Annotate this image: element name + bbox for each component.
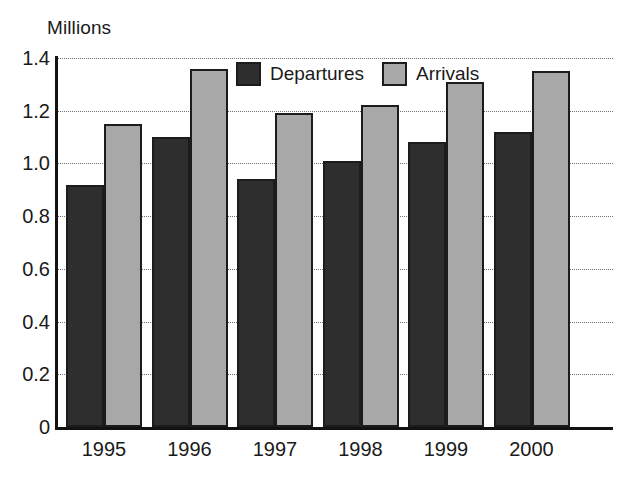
bar-chart: Millions 00.20.40.60.81.01.21.4 19951996… <box>0 0 633 484</box>
bar-arrivals-1995 <box>104 124 142 427</box>
legend-entry-departures: Departures <box>236 62 364 86</box>
x-axis-tick-label: 1997 <box>230 437 320 461</box>
bar-arrivals-1997 <box>275 113 313 427</box>
x-axis-tick-label: 1998 <box>316 437 406 461</box>
x-axis-tick-label: 2000 <box>487 437 577 461</box>
legend-label: Arrivals <box>416 64 479 84</box>
x-axis-tick-label: 1999 <box>401 437 491 461</box>
bar-departures-1995 <box>66 185 104 427</box>
bar-departures-1997 <box>237 179 275 427</box>
bar-departures-2000 <box>494 132 532 427</box>
chart-legend: DeparturesArrivals <box>236 62 479 86</box>
bar-departures-1996 <box>152 137 190 427</box>
legend-label: Departures <box>270 64 364 84</box>
bar-arrivals-1999 <box>446 82 484 427</box>
legend-entry-arrivals: Arrivals <box>382 62 479 86</box>
bar-departures-1999 <box>408 142 446 427</box>
bar-arrivals-1998 <box>361 105 399 427</box>
x-axis-tick-label: 1995 <box>59 437 149 461</box>
legend-swatch-icon <box>382 62 407 86</box>
bar-arrivals-2000 <box>532 71 570 427</box>
bar-departures-1998 <box>323 161 361 427</box>
bar-arrivals-1996 <box>190 69 228 427</box>
x-axis-tick-label: 1996 <box>145 437 235 461</box>
legend-swatch-icon <box>236 62 261 86</box>
